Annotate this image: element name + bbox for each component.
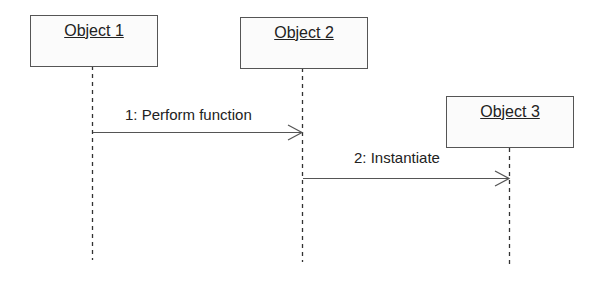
object-3-box[interactable]: Object 3 xyxy=(446,96,574,148)
object-3-label: Object 3 xyxy=(447,103,573,121)
message-1-label: 1: Perform function xyxy=(125,106,252,123)
object-2-label: Object 2 xyxy=(241,24,367,42)
message-2-label: 2: Instantiate xyxy=(354,149,440,166)
object-1-box[interactable]: Object 1 xyxy=(30,15,158,67)
object-2-box[interactable]: Object 2 xyxy=(240,17,368,69)
object-1-label: Object 1 xyxy=(31,22,157,40)
